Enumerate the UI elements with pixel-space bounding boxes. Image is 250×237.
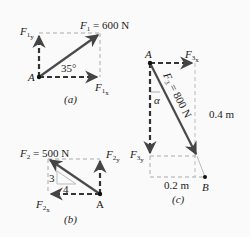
caption-a: (a) [64,93,77,106]
dim-0-4m: 0.4 m [209,108,235,120]
angle-35-label: 35° [61,62,76,74]
caption-b: (b) [64,213,77,226]
f1-label: F1 = 600 N [79,19,129,33]
point-a-label-c: A [144,48,152,60]
point-a-label: A [27,71,35,83]
panel-a: A 35° F1 = 600 N F1y F1x (a) [19,19,129,106]
alpha-label: α [154,94,160,106]
panel-c: A F3x F3 = 800 N α 0.4 m F3y 0.2 m B (c) [129,48,235,206]
f3x-label: F3x [184,48,199,64]
caption-c: (c) [172,193,185,206]
f3-label: F3 = 800 N [159,70,194,121]
slope-run-label: 4 [63,183,69,195]
f2y-label: F2y [105,148,120,164]
panel-b: F2 = 500 N F2y 3 4 F2x A (b) [19,147,120,226]
dim-0-2m: 0.2 m [164,179,190,191]
point-b-label: B [202,181,209,193]
f1x-label: F1x [94,81,109,97]
f1y-label: F1y [19,25,34,41]
point-a-label-b: A [96,198,104,210]
slope-rise-label: 3 [49,172,55,184]
f2x-label: F2x [35,198,50,214]
f2-label: F2 = 500 N [19,147,69,161]
f3y-label: F3y [129,148,144,164]
force-components-diagram: A 35° F1 = 600 N F1y F1x (a) F2 = 500 N [0,0,250,237]
